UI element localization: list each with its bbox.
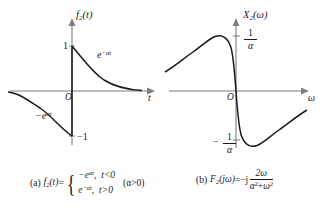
caption-a-cases: −eαt,t<0 e−αt,t>0 bbox=[78, 168, 115, 197]
tick-label-inv-alpha-b: 1 α bbox=[244, 28, 257, 51]
caption-b-equals: =−j bbox=[235, 175, 248, 185]
caption-b: (b) F2(jω) =−j 2ω α2+ω2 bbox=[196, 168, 273, 191]
caption-a-note: (α>0) bbox=[123, 178, 144, 188]
y-axis-label-b: X2(ω) bbox=[243, 9, 267, 22]
caption-b-function: F2(jω) bbox=[210, 174, 235, 185]
caption-b-numerator: 2ω bbox=[250, 168, 273, 179]
figure-container: f2(t) t 1 −1 O e−αt −eαt X2(ω) ω bbox=[0, 0, 323, 208]
tick-label-one-a: 1 bbox=[63, 40, 68, 51]
caption-a-case-2: e−αt,t>0 bbox=[78, 183, 115, 198]
x-axis-label-b: ω bbox=[308, 92, 315, 103]
caption-b-index: (b) bbox=[196, 175, 207, 185]
panel-a-plot bbox=[0, 0, 161, 152]
panel-b-frequency-domain: X2(ω) ω O 1 α − 1 α bbox=[161, 0, 322, 152]
tick-label-minus-one-a: −1 bbox=[77, 131, 88, 142]
caption-b-denominator: α2+ω2 bbox=[250, 180, 273, 192]
tick-label-minus-inv-alpha-b: − 1 α bbox=[213, 132, 237, 155]
panel-b-plot bbox=[161, 0, 323, 152]
y-axis-label-a: f2(t) bbox=[76, 9, 92, 22]
caption-a-function: f2(t) bbox=[44, 177, 59, 188]
caption-a-equals: = bbox=[58, 178, 63, 188]
curve-label-right-a: e−αt bbox=[97, 49, 111, 60]
caption-a-case-1: −eαt,t<0 bbox=[78, 168, 115, 183]
curve-label-left-a: −eαt bbox=[35, 110, 51, 121]
caption-a: (a) f2(t) = { −eαt,t<0 e−αt,t>0 (α>0) bbox=[30, 168, 145, 197]
origin-label-a: O bbox=[65, 92, 72, 102]
x-axis-a bbox=[10, 88, 155, 95]
origin-label-b: O bbox=[227, 92, 234, 102]
x-axis-label-a: t bbox=[148, 92, 151, 103]
panel-a-time-domain: f2(t) t 1 −1 O e−αt −eαt bbox=[0, 0, 161, 152]
x-axis-b bbox=[169, 88, 309, 95]
caption-a-index: (a) bbox=[30, 178, 41, 188]
caption-b-fraction: 2ω α2+ω2 bbox=[250, 168, 273, 191]
